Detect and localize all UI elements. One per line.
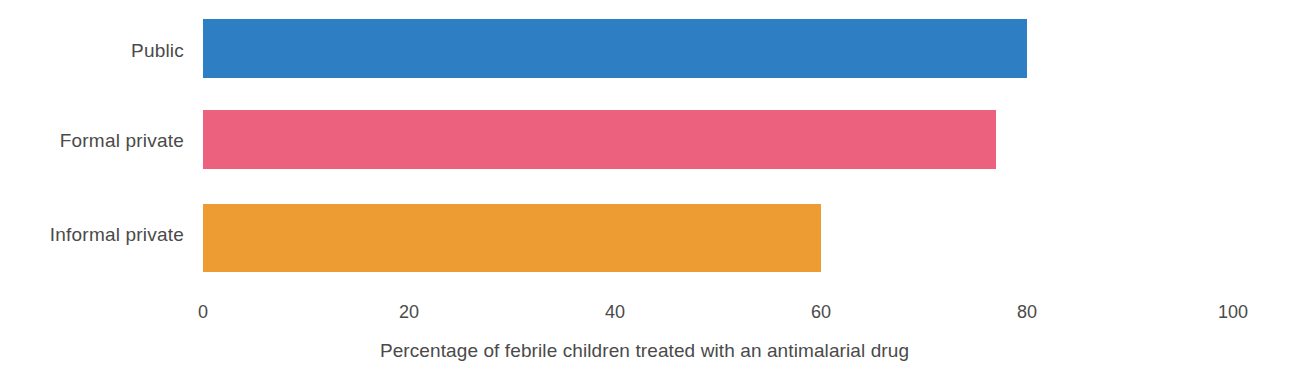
x-tick-40: 40 [605,303,625,321]
x-tick-60: 60 [811,303,831,321]
bar-public [203,19,1027,78]
category-label-public: Public [131,41,184,60]
x-tick-80: 80 [1017,303,1037,321]
category-label-formal-private: Formal private [60,131,184,150]
x-axis-title: Percentage of febrile children treated w… [0,341,1289,360]
bar-chart: Public Formal private Informal private 0… [0,0,1289,392]
bar-informal-private [203,204,821,272]
x-tick-100: 100 [1218,303,1248,321]
x-tick-20: 20 [399,303,419,321]
x-tick-0: 0 [198,303,208,321]
category-label-informal-private: Informal private [50,225,184,244]
bar-formal-private [203,110,996,169]
